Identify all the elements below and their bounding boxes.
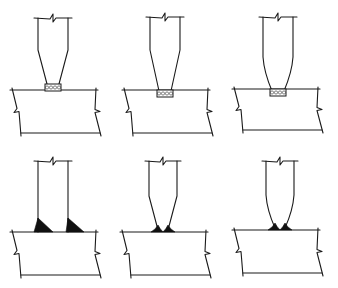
plate-left-break [234, 228, 243, 276]
plate-left-break [12, 88, 21, 136]
plate-left-break [12, 230, 21, 278]
web-left-edge [149, 161, 158, 230]
web-left-edge [38, 18, 47, 84]
panel-b3 [232, 157, 323, 276]
plate-left-break [122, 230, 131, 278]
panel-a2 [122, 13, 213, 136]
break-line-icon [259, 13, 297, 21]
plate-left-break [234, 87, 243, 133]
web-right-edge [168, 161, 177, 230]
panel-a3 [232, 13, 323, 133]
weld-diagram-svg [0, 0, 338, 288]
fillet-weld-left [34, 218, 53, 232]
panel-a1 [10, 14, 101, 136]
plate-right-break [205, 230, 211, 278]
weld-deposit-hatched [270, 89, 286, 96]
fillet-weld-left [268, 223, 280, 230]
plate-left-break [124, 88, 133, 136]
plate-right-break [317, 87, 323, 133]
weld-diagram [0, 0, 338, 288]
web-right-edge [171, 17, 180, 91]
web-left-edge [263, 17, 272, 91]
fillet-weld-right [66, 218, 84, 232]
fillet-welds [34, 218, 84, 232]
fillet-weld-right [280, 223, 292, 230]
break-line-icon [34, 157, 72, 165]
panel-b1 [10, 157, 101, 278]
fillet-welds [268, 223, 292, 230]
break-line-icon [146, 13, 184, 21]
weld-deposit-hatched [45, 84, 61, 91]
fillet-welds [151, 225, 175, 232]
plate-right-break [95, 230, 101, 278]
break-line-icon [145, 157, 181, 165]
web-right-edge [284, 17, 293, 91]
web-left-edge [150, 17, 159, 91]
plate-right-break [207, 88, 213, 136]
web-right-edge [285, 161, 294, 228]
break-line-icon [262, 157, 298, 165]
web-right-edge [59, 18, 68, 84]
panel-b2 [120, 157, 211, 278]
plate-right-break [317, 228, 323, 276]
break-line-icon [34, 14, 72, 22]
plate-right-break [95, 88, 101, 136]
web-left-edge [266, 161, 275, 228]
weld-deposit-hatched [157, 90, 173, 97]
